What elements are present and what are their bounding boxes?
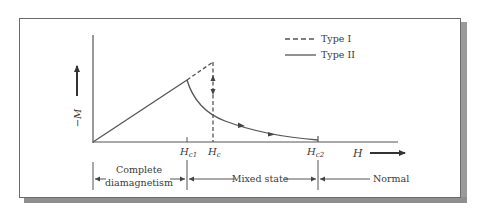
legend: Type I Type II — [285, 33, 355, 60]
type2-curve — [187, 80, 318, 140]
x-axis-label: H — [352, 147, 363, 160]
region-normal: Normal — [373, 173, 409, 184]
type1-arrow-down-icon — [211, 89, 216, 95]
y-axis-label-group: −M — [72, 66, 83, 127]
type1-arrow-up-icon — [211, 75, 216, 81]
region-mixed: Mixed state — [232, 173, 289, 184]
hc-label: Hc — [207, 146, 221, 159]
region-complete-line2: diamagnetism — [105, 177, 173, 188]
type2-arrow-2-icon — [268, 132, 275, 137]
type1-dashed-rise — [187, 62, 213, 80]
legend-type1-label: Type I — [321, 33, 351, 44]
y-axis-label: −M — [72, 108, 83, 127]
magnetization-diagram: −M H Hc1 Hc Hc2 Complete diamagnetism Mi… — [0, 0, 482, 218]
legend-type2-label: Type II — [321, 49, 355, 60]
meissner-line — [93, 80, 187, 142]
region-complete-line1: Complete — [116, 164, 163, 175]
hc1-label: Hc1 — [179, 146, 197, 159]
hc2-label: Hc2 — [306, 146, 325, 159]
